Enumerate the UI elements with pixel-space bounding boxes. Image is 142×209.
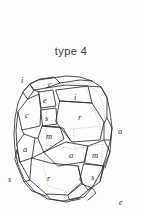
edge-right-body-vertical <box>101 87 107 118</box>
edge-left-body-vertical-2 <box>16 112 18 146</box>
crystal-outline <box>14 76 112 201</box>
label-s-lower-right: s <box>91 172 95 182</box>
face-e-upper <box>39 90 56 108</box>
label-e-bottom: e <box>119 198 123 207</box>
crystal-figure: type 4 <box>0 0 142 209</box>
label-c-top: c <box>48 80 52 89</box>
edge-bottom-right-bevel <box>88 188 96 200</box>
face-c-left <box>18 94 41 130</box>
label-a-center: a <box>69 150 73 160</box>
edge-top-ridge <box>60 80 92 83</box>
label-r-upper-right: r <box>78 112 82 122</box>
label-s-lower-left: s <box>8 174 12 184</box>
label-e-upper: e <box>43 95 47 105</box>
crystal-drawing: i c e i c r s a m a a m s r s e <box>0 0 142 209</box>
label-i-upper-right: i <box>74 92 77 102</box>
label-i-top-left: i <box>21 75 24 85</box>
edge-mid-connect-2 <box>32 152 44 158</box>
edge-left-body-vertical <box>22 130 24 134</box>
label-m-lower-right: m <box>92 150 98 160</box>
edge-e-to-c-left <box>34 90 39 92</box>
face-e-bottom <box>68 184 92 200</box>
label-a-lower-left: a <box>23 144 27 154</box>
label-s-upper-left: s <box>45 113 49 123</box>
face-s-lower-left <box>15 150 30 182</box>
label-a-right: a <box>118 126 122 136</box>
label-r-lower: r <box>47 173 51 183</box>
label-m-left: m <box>46 131 52 141</box>
hidden-edge-r-back-diag <box>74 129 75 149</box>
visible-edges-group <box>14 76 112 202</box>
label-c-left: c <box>25 110 29 120</box>
face-s-upper-left <box>41 108 57 126</box>
hidden-edge-upper-diag-right <box>84 84 100 126</box>
